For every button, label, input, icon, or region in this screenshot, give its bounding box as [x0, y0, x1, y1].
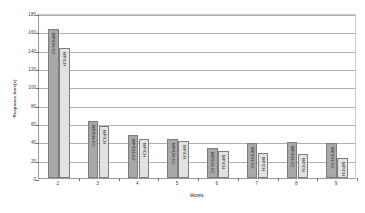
bar-mpich-g2-host-4[interactable]: MPICH-G2	[128, 135, 139, 178]
bar-mpich-host-3[interactable]: MPICH	[99, 126, 110, 178]
bar-mpich-host-4[interactable]: MPICH	[139, 139, 150, 178]
bar-series-label: MPICH-G2	[329, 147, 334, 168]
x-tick-label: 6	[216, 181, 219, 186]
bar-series-label: MPICH	[102, 130, 107, 144]
y-tick-label: 0	[14, 177, 36, 182]
bar-group: MPICH-G2MPICH	[119, 15, 159, 178]
bar-mpich-g2-host-5[interactable]: MPICH-G2	[167, 139, 178, 178]
bar-mpich-host-2[interactable]: MPICH	[59, 48, 70, 178]
y-tick-label: 100	[14, 85, 36, 90]
bar-series-label: MPICH	[340, 162, 345, 176]
bar-mpich-host-7[interactable]: MPICH	[258, 153, 269, 178]
bar-series-label: MPICH-G2	[250, 147, 255, 168]
bar-mpich-host-5[interactable]: MPICH	[178, 141, 189, 178]
bar-mpich-host-9[interactable]: MPICH	[337, 158, 348, 178]
y-tick-label: 60	[14, 122, 36, 127]
x-tick-label: 5	[176, 181, 179, 186]
plot-area: MPICH-G2MPICHMPICH-G2MPICHMPICH-G2MPICHM…	[38, 14, 356, 179]
x-axis-title: Hosts	[38, 193, 356, 198]
bar-series-label: MPICH	[181, 145, 186, 159]
y-tick-label: 20	[14, 158, 36, 163]
x-tick-label: 3	[96, 181, 99, 186]
bar-series-label: MPICH	[141, 143, 146, 157]
bar-mpich-g2-host-2[interactable]: MPICH-G2	[48, 29, 59, 178]
bar-series-label: MPICH	[62, 52, 67, 66]
bar-series-label: MPICH-G2	[289, 146, 294, 167]
x-tick-label: 7	[255, 181, 258, 186]
response-time-bar-chart: Response time(s) 02040608010012014016018…	[0, 0, 365, 213]
x-tick-label: 4	[136, 181, 139, 186]
bar-mpich-g2-host-7[interactable]: MPICH-G2	[247, 143, 258, 178]
bar-series-label: MPICH	[300, 158, 305, 172]
bar-group: MPICH-G2MPICH	[317, 15, 357, 178]
bar-group: MPICH-G2MPICH	[238, 15, 278, 178]
bar-group: MPICH-G2MPICH	[198, 15, 238, 178]
y-tick-label: 120	[14, 67, 36, 72]
x-axis-tick-labels: 23456789	[38, 181, 356, 193]
bar-mpich-host-6[interactable]: MPICH	[218, 151, 229, 179]
bar-series-label: MPICH-G2	[170, 143, 175, 164]
y-tick-label: 140	[14, 48, 36, 53]
y-tick-label: 160	[14, 30, 36, 35]
x-tick-mark	[357, 178, 358, 181]
y-tick-label: 80	[14, 103, 36, 108]
bar-group: MPICH-G2MPICH	[39, 15, 79, 178]
bar-series-label: MPICH-G2	[210, 152, 215, 173]
x-tick-label: 2	[57, 181, 60, 186]
bar-mpich-g2-host-6[interactable]: MPICH-G2	[207, 148, 218, 178]
x-tick-label: 9	[335, 181, 338, 186]
y-tick-label: 40	[14, 140, 36, 145]
bars-layer: MPICH-G2MPICHMPICH-G2MPICHMPICH-G2MPICHM…	[39, 15, 355, 178]
y-tick-label: 180	[14, 12, 36, 17]
bar-mpich-g2-host-9[interactable]: MPICH-G2	[326, 143, 337, 178]
x-tick-label: 8	[295, 181, 298, 186]
y-axis-tick-labels: 020406080100120140160180	[14, 0, 36, 213]
bar-series-label: MPICH	[221, 155, 226, 169]
bar-group: MPICH-G2MPICH	[158, 15, 198, 178]
bar-series-label: MPICH-G2	[51, 33, 56, 54]
bar-series-label: MPICH-G2	[91, 125, 96, 146]
bar-mpich-host-8[interactable]: MPICH	[298, 154, 309, 178]
bar-group: MPICH-G2MPICH	[79, 15, 119, 178]
bar-series-label: MPICH-G2	[130, 139, 135, 160]
bar-mpich-g2-host-8[interactable]: MPICH-G2	[287, 142, 298, 178]
bar-mpich-g2-host-3[interactable]: MPICH-G2	[88, 121, 99, 178]
bar-group: MPICH-G2MPICH	[278, 15, 318, 178]
bar-series-label: MPICH	[261, 157, 266, 171]
